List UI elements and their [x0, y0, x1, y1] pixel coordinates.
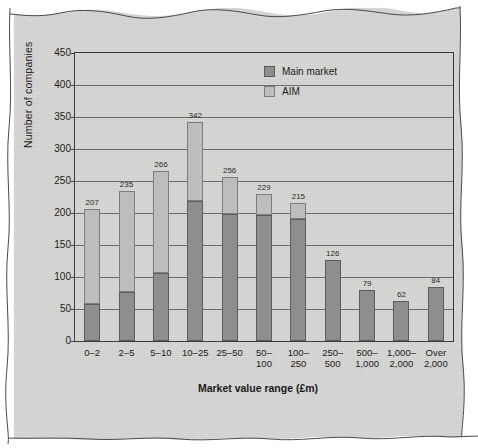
bar-column[interactable]: 207	[84, 209, 100, 341]
bar-segment-main-market[interactable]	[393, 301, 409, 341]
x-tick-label: 500–1,000	[350, 347, 384, 369]
x-axis-title: Market value range (£m)	[138, 382, 378, 394]
bar-segment-main-market[interactable]	[428, 287, 444, 341]
torn-edge-left	[0, 0, 22, 448]
bar-segment-main-market[interactable]	[119, 292, 135, 341]
bar-value-label: 235	[120, 180, 133, 189]
bar-segment-aim[interactable]	[256, 194, 272, 214]
x-tick-label: 50–100	[247, 347, 281, 369]
bar-value-label: 79	[363, 279, 372, 288]
bar-segment-main-market[interactable]	[84, 304, 100, 341]
bar-segment-aim[interactable]	[153, 171, 169, 273]
x-tick-label: 10–25	[178, 347, 212, 358]
bar-value-label: 215	[292, 192, 305, 201]
x-tick-label: 0–2	[75, 347, 109, 358]
x-tick-label: Over2,000	[419, 347, 453, 369]
y-tick-mark	[71, 341, 75, 342]
torn-edge-bottom	[0, 426, 478, 448]
chart-legend: Main market AIM	[264, 66, 382, 106]
bar-segment-main-market[interactable]	[325, 260, 341, 341]
bar-value-label: 229	[257, 183, 270, 192]
legend-label-main-market: Main market	[282, 66, 337, 77]
y-axis-title: Number of companies	[22, 41, 34, 148]
bar-value-label: 126	[326, 249, 339, 258]
bar-column[interactable]: 62	[393, 301, 409, 341]
y-tick-label: 150	[35, 239, 71, 250]
y-tick-label: 100	[35, 271, 71, 282]
y-tick-label: 300	[35, 143, 71, 154]
bar-value-label: 266	[154, 160, 167, 169]
bar-segment-main-market[interactable]	[153, 273, 169, 341]
bar-segment-aim[interactable]	[84, 209, 100, 304]
bar-value-label: 84	[431, 276, 440, 285]
x-tick-label: 25–50	[212, 347, 246, 358]
y-tick-label: 250	[35, 175, 71, 186]
bar-segment-main-market[interactable]	[222, 214, 238, 341]
bar-value-label: 62	[397, 290, 406, 299]
bar-column[interactable]: 215	[290, 203, 306, 341]
bar-segment-main-market[interactable]	[187, 201, 203, 341]
bar-value-label: 342	[189, 111, 202, 120]
bar-chart: Number of companies Market value range (…	[28, 30, 460, 418]
bar-value-label: 256	[223, 166, 236, 175]
x-tick-label: 5–10	[144, 347, 178, 358]
bar-segment-main-market[interactable]	[359, 290, 375, 341]
bar-column[interactable]: 79	[359, 290, 375, 341]
legend-swatch-icon-main-market	[264, 66, 275, 77]
scanned-page: Number of companies Market value range (…	[0, 0, 478, 448]
bar-segment-aim[interactable]	[187, 122, 203, 201]
bar-segment-aim[interactable]	[222, 177, 238, 213]
y-tick-label: 350	[35, 111, 71, 122]
x-tick-label: 1,000–2,000	[384, 347, 418, 369]
legend-label-aim: AIM	[282, 86, 300, 97]
bar-segment-main-market[interactable]	[290, 219, 306, 341]
bar-column[interactable]: 126	[325, 260, 341, 341]
bar-segment-aim[interactable]	[119, 191, 135, 293]
bar-segment-main-market[interactable]	[256, 215, 272, 341]
x-tick-label: 100–250	[281, 347, 315, 369]
bar-column[interactable]: 84	[428, 287, 444, 341]
bar-column[interactable]: 229	[256, 194, 272, 341]
x-tick-label: 2–5	[109, 347, 143, 358]
y-tick-label: 200	[35, 207, 71, 218]
y-tick-label: 0	[35, 335, 71, 346]
y-tick-label: 400	[35, 79, 71, 90]
bar-value-label: 207	[85, 198, 98, 207]
legend-item-aim: AIM	[264, 86, 382, 97]
bar-column[interactable]: 256	[222, 177, 238, 341]
bar-segment-aim[interactable]	[290, 203, 306, 218]
x-tick-label: 250–500	[316, 347, 350, 369]
bar-column[interactable]: 342	[187, 122, 203, 341]
legend-swatch-icon-aim	[264, 86, 275, 97]
y-tick-label: 450	[35, 47, 71, 58]
legend-item-main-market: Main market	[264, 66, 382, 77]
y-tick-label: 50	[35, 303, 71, 314]
bar-column[interactable]: 266	[153, 171, 169, 341]
torn-edge-top	[0, 0, 478, 33]
bar-column[interactable]: 235	[119, 191, 135, 341]
